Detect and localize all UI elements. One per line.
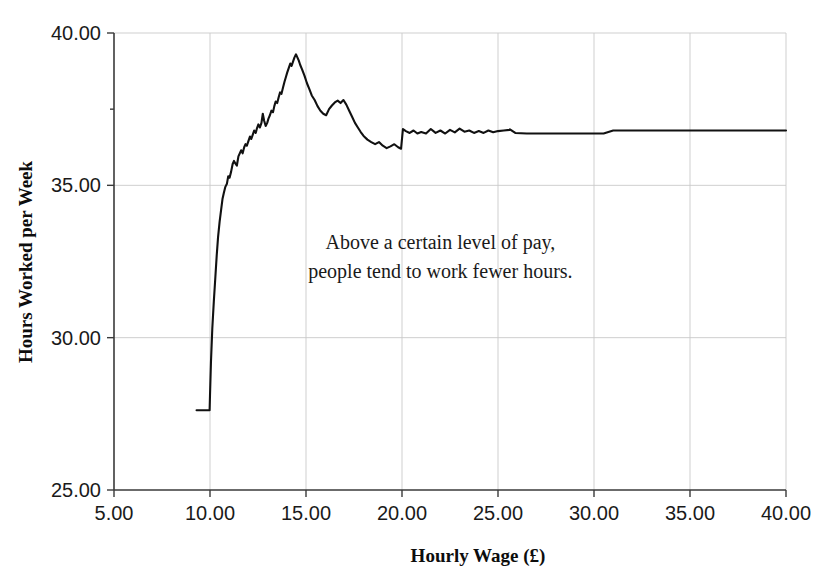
x-tick-label-3: 20.00 bbox=[377, 502, 427, 524]
x-tick-label-2: 15.00 bbox=[281, 502, 331, 524]
x-tick-label-5: 30.00 bbox=[569, 502, 619, 524]
hours-vs-wage-line-chart: 5.0010.0015.0020.0025.0030.0035.0040.00 … bbox=[0, 0, 837, 587]
y-tick-label-1: 30.00 bbox=[51, 327, 101, 349]
y-tick-label-0: 25.00 bbox=[51, 479, 101, 501]
x-tick-label-7: 40.00 bbox=[761, 502, 811, 524]
y-axis-title: Hours Worked per Week bbox=[15, 160, 36, 363]
y-tick-label-2: 35.00 bbox=[51, 174, 101, 196]
x-tick-label-4: 25.00 bbox=[473, 502, 523, 524]
chart-container: 5.0010.0015.0020.0025.0030.0035.0040.00 … bbox=[0, 0, 837, 587]
x-tick-label-1: 10.00 bbox=[185, 502, 235, 524]
x-tick-label-0: 5.00 bbox=[95, 502, 134, 524]
annotation-line-0-1: people tend to work fewer hours. bbox=[308, 260, 572, 283]
annotation-line-0-0: Above a certain level of pay, bbox=[326, 231, 556, 254]
chart-annotations-group: Above a certain level of pay,people tend… bbox=[308, 231, 572, 283]
x-axis-title: Hourly Wage (£) bbox=[411, 545, 546, 567]
x-tick-labels-group: 5.0010.0015.0020.0025.0030.0035.0040.00 bbox=[95, 502, 812, 524]
x-tick-label-6: 35.00 bbox=[665, 502, 715, 524]
y-tick-labels-group: 25.0030.0035.0040.00 bbox=[51, 22, 101, 501]
y-tick-label-3: 40.00 bbox=[51, 22, 101, 44]
